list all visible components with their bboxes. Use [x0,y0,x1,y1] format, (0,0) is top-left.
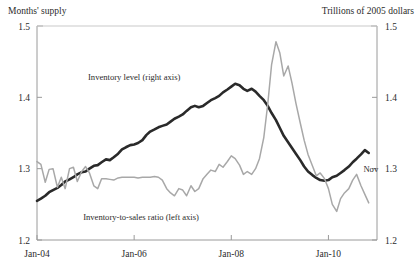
axis-frame [37,26,377,240]
ytick-label-left-1: 1.3 [18,164,30,174]
inventory-chart: Months' supply Trillions of 2005 dollars… [0,0,418,273]
ytick-label-left-3: 1.5 [18,22,30,32]
ytick-label-right-2: 1.4 [385,93,397,103]
ytick-label-right-1: 1.3 [385,164,397,174]
xtick-label-2: Jan-08 [219,249,245,259]
right-axis-unit-label: Trillions of 2005 dollars [322,6,414,16]
inventory-to-sales-label: Inventory-to-sales ratio (left axis) [83,212,199,222]
xtick-label-3: Jan-10 [316,249,342,259]
left-axis-unit-label: Months' supply [8,6,66,16]
inventory-level-label: Inventory level (right axis) [88,72,180,82]
last-point-label: Nov [363,164,379,174]
ytick-label-right-0: 1.2 [385,236,397,246]
chart-plot-area: 1.21.31.41.51.21.31.41.5Jan-04Jan-06Jan-… [0,0,418,273]
series-line-inventory-level [37,84,369,201]
series-line-inventory-to-sales-ratio [37,42,369,212]
xtick-label-0: Jan-04 [24,249,50,259]
ytick-label-right-3: 1.5 [385,22,397,32]
ytick-label-left-2: 1.4 [18,93,30,103]
xtick-label-1: Jan-06 [121,249,147,259]
ytick-label-left-0: 1.2 [18,236,30,246]
